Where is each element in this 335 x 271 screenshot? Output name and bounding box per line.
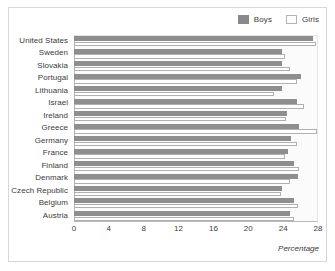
bar-boys xyxy=(74,111,287,116)
legend-label: Girls xyxy=(302,15,319,24)
bar-boys xyxy=(74,149,288,154)
y-axis-label: Austria xyxy=(43,210,68,222)
bar-group xyxy=(74,172,318,184)
bar-girls xyxy=(74,192,281,196)
x-tick-label: 0 xyxy=(72,224,76,233)
bar-girls xyxy=(74,217,294,221)
x-tick-label: 16 xyxy=(209,224,218,233)
x-tick-label: 24 xyxy=(279,224,288,233)
y-axis-label: Sweden xyxy=(39,47,68,59)
bar-girls xyxy=(74,67,290,71)
bar-boys xyxy=(74,61,282,66)
bar-boys xyxy=(74,211,290,216)
bar-boys xyxy=(74,124,299,129)
legend-entry-girls[interactable]: Girls xyxy=(286,15,319,24)
bar-group xyxy=(74,85,318,97)
plot-area xyxy=(74,35,318,222)
y-axis-label: Lithuania xyxy=(35,85,68,97)
y-axis-label: Denmark xyxy=(35,172,68,184)
bar-girls xyxy=(74,154,285,158)
x-tick-label: 20 xyxy=(244,224,253,233)
y-axis-label: Czech Republic xyxy=(11,185,68,197)
y-axis-category-labels: United StatesSwedenSlovakiaPortugalLithu… xyxy=(0,35,71,222)
x-tick-label: 28 xyxy=(314,224,323,233)
bar-group xyxy=(74,210,318,222)
x-tick-label: 8 xyxy=(141,224,145,233)
x-tick-label: 12 xyxy=(174,224,183,233)
y-axis-label: Finland xyxy=(41,160,68,172)
bar-group xyxy=(74,185,318,197)
bar-group xyxy=(74,35,318,47)
bar-girls xyxy=(74,142,297,146)
legend-entry-boys[interactable]: Boys xyxy=(238,15,272,24)
bar-girls xyxy=(74,179,290,183)
bar-boys xyxy=(74,99,297,104)
bar-boys xyxy=(74,161,294,166)
bar-girls xyxy=(74,204,298,208)
y-axis-label: Ireland xyxy=(43,110,68,122)
bar-girls xyxy=(74,92,274,96)
y-axis-label: United States xyxy=(19,35,68,47)
chart-figure: BoysGirls United StatesSwedenSlovakiaPor… xyxy=(0,0,335,271)
bar-group xyxy=(74,47,318,59)
x-axis-title: Percentage xyxy=(278,244,319,253)
bar-boys xyxy=(74,198,294,203)
bar-group xyxy=(74,147,318,159)
y-axis-label: Israel xyxy=(48,97,68,109)
bar-girls xyxy=(74,129,317,133)
y-axis-label: Belgium xyxy=(39,197,68,209)
bar-girls xyxy=(74,54,285,58)
bar-rows xyxy=(74,35,318,222)
bar-boys xyxy=(74,174,298,179)
bar-girls xyxy=(74,42,316,46)
bar-boys xyxy=(74,36,313,41)
bar-group xyxy=(74,197,318,209)
bar-group xyxy=(74,97,318,109)
bar-boys xyxy=(74,136,291,141)
bar-boys xyxy=(74,49,282,54)
bar-group xyxy=(74,135,318,147)
bar-boys xyxy=(74,186,282,191)
x-tick-label: 4 xyxy=(107,224,111,233)
x-axis-tick-labels: 0481216202428 xyxy=(74,224,318,236)
bar-group xyxy=(74,60,318,72)
y-axis-label: Greece xyxy=(41,122,68,134)
bar-boys xyxy=(74,74,301,79)
y-axis-label: Portugal xyxy=(38,72,68,84)
bar-boys xyxy=(74,86,282,91)
legend-label: Boys xyxy=(254,15,272,24)
y-axis-label: France xyxy=(43,147,68,159)
bar-group xyxy=(74,122,318,134)
y-axis-label: Germany xyxy=(35,135,68,147)
y-axis-label: Slovakia xyxy=(37,60,68,72)
bar-group xyxy=(74,160,318,172)
chart-legend: BoysGirls xyxy=(238,13,319,25)
legend-swatch-girls-icon xyxy=(286,15,297,24)
bar-group xyxy=(74,72,318,84)
bar-girls xyxy=(74,167,299,171)
bar-group xyxy=(74,110,318,122)
bar-girls xyxy=(74,104,304,108)
bar-girls xyxy=(74,79,297,83)
legend-swatch-boys-icon xyxy=(238,15,249,24)
bar-girls xyxy=(74,117,286,121)
